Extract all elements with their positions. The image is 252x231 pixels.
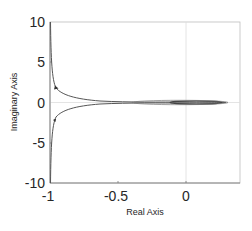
ytick-minus5: -5	[33, 135, 46, 151]
xtick-minus1: -1	[42, 188, 55, 204]
ytick-0: 0	[37, 95, 45, 111]
x-axis-label: Real Axis	[126, 207, 164, 217]
nyquist-plot: 10 5 0 -5 -10 -1 -0.5 0 Real Axis Imagin…	[0, 0, 252, 231]
ytick-5: 5	[37, 54, 45, 70]
xtick-0: 0	[182, 188, 190, 204]
xtick-minus0.5: -0.5	[104, 188, 128, 204]
y-axis-label: Imaginary Axis	[9, 72, 19, 131]
ytick-10: 10	[29, 14, 45, 30]
